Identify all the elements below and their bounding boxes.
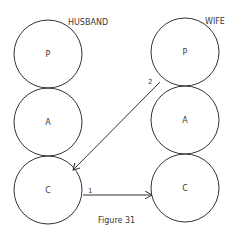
transaction-diagram: HUSBAND P A C WIFE P A C 1 2 Figure 31 <box>0 0 235 244</box>
husband-column: HUSBAND P A C <box>14 18 108 224</box>
wife-parent-label: P <box>183 48 188 57</box>
wife-child-label: C <box>182 184 188 193</box>
wife-adult-label: A <box>182 116 188 125</box>
husband-child-label: C <box>45 186 51 195</box>
transaction-number-1: 1 <box>88 187 92 195</box>
transaction-number-2: 2 <box>148 78 152 86</box>
husband-adult-label: A <box>45 118 51 127</box>
figure-caption: Figure 31 <box>98 216 135 225</box>
wife-label: WIFE <box>205 17 225 26</box>
husband-label: HUSBAND <box>68 18 108 27</box>
husband-parent-label: P <box>46 50 51 59</box>
transaction-arrow-2 <box>73 82 160 170</box>
wife-column: WIFE P A C <box>151 17 225 222</box>
